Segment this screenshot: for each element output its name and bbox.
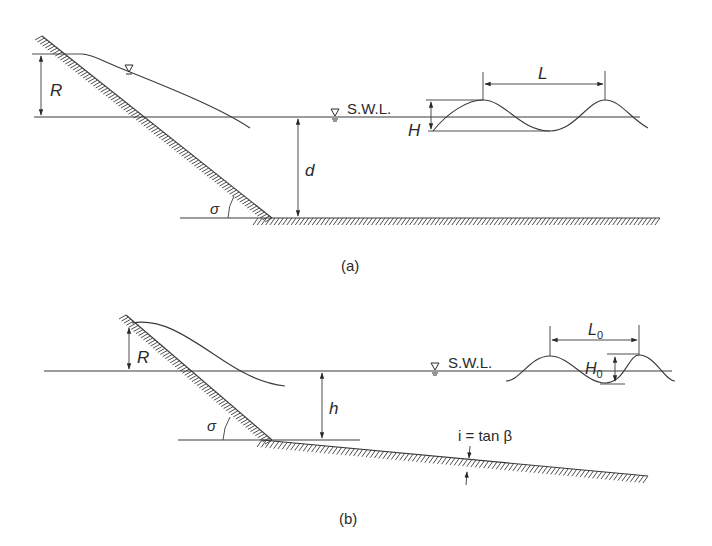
slope-hatching-a xyxy=(35,36,272,222)
depth-label-a: d xyxy=(305,161,315,180)
seabed-hatching-a xyxy=(253,218,660,225)
slope-angle-arc-b xyxy=(223,417,230,440)
figure-canvas: R d σ S.W.L. H L (a) xyxy=(0,0,712,546)
slope-angle-arc-a xyxy=(228,196,234,218)
caption-a: (a) xyxy=(341,257,359,274)
bed-slope-arrow-top xyxy=(469,446,470,458)
wave-profile-a xyxy=(433,100,648,131)
depth-label-b: h xyxy=(329,399,338,418)
slope-hatching-b xyxy=(119,315,272,444)
runup-label-a: R xyxy=(50,81,62,100)
seabed-hatching-b xyxy=(257,440,648,483)
swl-label-a: S.W.L. xyxy=(347,100,391,117)
slope-angle-label-b: σ xyxy=(207,417,217,434)
diagram-a: R d σ S.W.L. H L (a) xyxy=(32,36,660,274)
slope-angle-label-a: σ xyxy=(210,200,220,217)
diagram-b: R h σ S.W.L. H0 L0 i = tan β (b) xyxy=(44,315,675,527)
caption-b: (b) xyxy=(339,510,357,527)
bed-slope-label-b: i = tan β xyxy=(458,427,512,444)
water-level-triangle-icon xyxy=(431,363,439,375)
swl-label-b: S.W.L. xyxy=(448,354,492,371)
wave-length-label-b: L0 xyxy=(588,321,603,341)
runup-label-b: R xyxy=(137,348,149,367)
bed-slope-arrow-bottom xyxy=(466,472,467,485)
water-level-triangle-icon xyxy=(331,109,339,121)
wave-height-label-a: H xyxy=(408,121,421,140)
slope-surface-a xyxy=(42,36,272,218)
runup-surface-b xyxy=(132,322,285,386)
wave-length-label-a: L xyxy=(538,64,547,83)
